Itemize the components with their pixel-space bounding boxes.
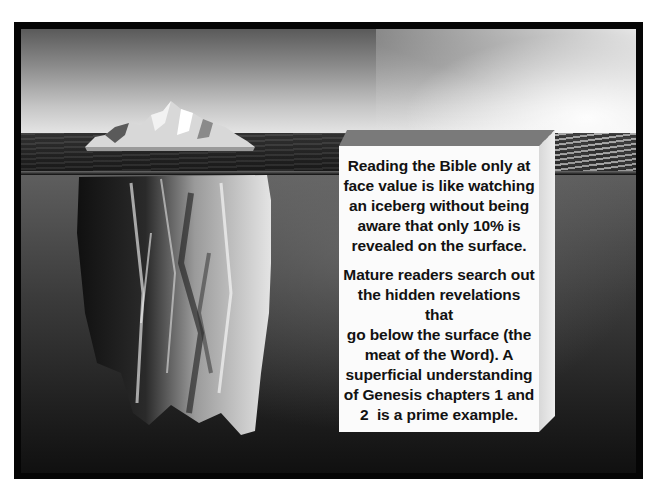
text-line: 2 is a prime example. [360, 406, 518, 423]
text-line: an iceberg without being [349, 197, 529, 214]
iceberg-underwater [71, 173, 271, 441]
text-line: Reading the Bible only at [348, 157, 531, 174]
text-line: revealed on the surface. [351, 237, 526, 254]
paragraph-mature-readers: Mature readers search out the hidden rev… [343, 265, 535, 425]
text-line: Mature readers search out [343, 266, 534, 283]
text-line: go below the surface (the [347, 326, 531, 343]
text-line: meat of the Word). A [365, 346, 514, 363]
text-line: superficial understanding [346, 366, 533, 383]
text-callout-box: Reading the Bible only at face value is … [339, 130, 555, 432]
box-side-face [539, 130, 555, 432]
text-line: aware that only 10% is [357, 217, 520, 234]
iceberg-tip [85, 101, 255, 151]
paragraph-iceberg-analogy: Reading the Bible only at face value is … [343, 156, 535, 256]
box-front-face: Reading the Bible only at face value is … [339, 146, 539, 432]
box-top-face [339, 130, 555, 146]
sky-glow [376, 29, 636, 133]
text-line: face value is like watching [343, 177, 534, 194]
text-line: the hidden revelations that [358, 286, 520, 323]
text-line: of Genesis chapters 1 and [344, 386, 534, 403]
slide-frame: Reading the Bible only at face value is … [14, 22, 643, 479]
iceberg-photo: Reading the Bible only at face value is … [21, 29, 636, 473]
